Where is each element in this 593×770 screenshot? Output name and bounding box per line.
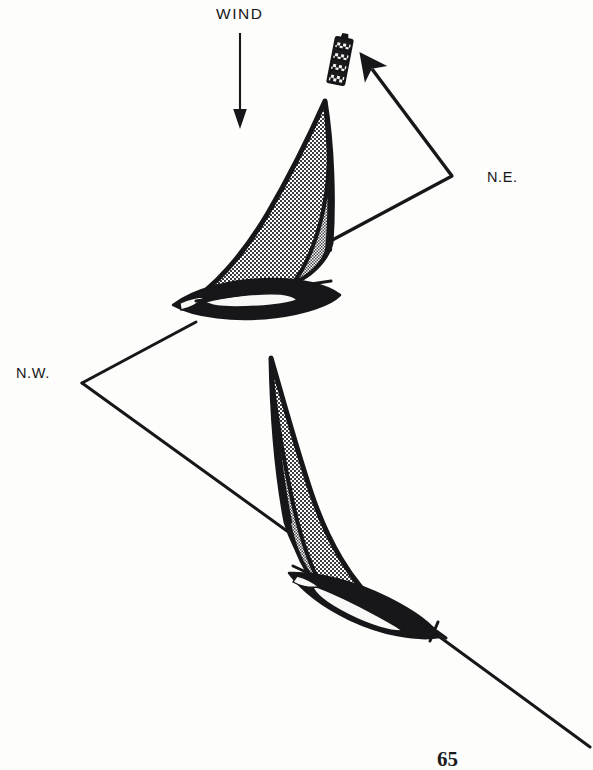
buoy-body <box>327 37 352 85</box>
upper-sailboat <box>173 101 340 319</box>
diagram-canvas <box>0 0 593 770</box>
track-leg-start <box>437 635 590 747</box>
wind-label: WIND <box>216 5 264 23</box>
northwest-label: N.W. <box>16 365 50 381</box>
lower-sailboat <box>271 358 446 641</box>
wind-arrow-head <box>233 109 247 129</box>
northeast-label: N.E. <box>487 169 518 185</box>
racing-mark-buoy <box>327 32 353 85</box>
page-number: 65 <box>437 748 458 770</box>
sailing-diagram-figure: WIND N.E. N.W. 65 <box>0 0 593 770</box>
track-leg-ne-to-nw <box>82 383 287 531</box>
track-leg-boat-to-ne <box>323 176 452 245</box>
wind-arrow <box>233 33 247 129</box>
track-leg-nw-to-boat <box>82 322 196 383</box>
track-leg-to-mark <box>372 69 452 176</box>
